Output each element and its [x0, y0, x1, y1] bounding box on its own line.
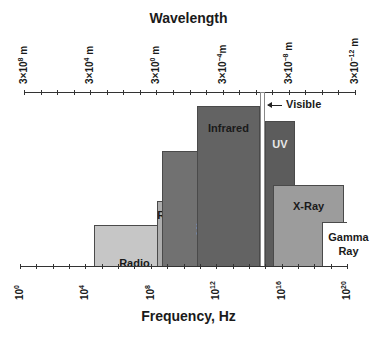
frequency-tick	[20, 264, 21, 269]
frequency-tick	[331, 264, 332, 269]
frequency-tick-label: 100	[13, 285, 25, 300]
band-label-gamma-ray: GammaRay	[324, 230, 372, 258]
band-visible	[260, 92, 265, 266]
wavelength-tick	[355, 90, 356, 95]
frequency-tick-label: 104	[78, 285, 90, 300]
frequency-tick-label: 1016	[275, 281, 287, 300]
visible-arrow-icon	[268, 105, 282, 106]
wavelength-tick	[156, 90, 157, 95]
wavelength-tick	[322, 90, 323, 95]
wavelength-tick	[41, 90, 42, 95]
frequency-tick	[53, 264, 54, 269]
frequency-tick	[36, 264, 37, 269]
wavelength-tick-label: 3×108 m	[17, 46, 29, 84]
frequency-tick	[282, 264, 283, 269]
frequency-tick-label: 108	[144, 285, 156, 300]
band-label-uv: UV	[265, 138, 294, 150]
frequency-tick	[85, 264, 86, 269]
wavelength-tick	[173, 90, 174, 95]
frequency-tick	[134, 264, 135, 269]
frequency-tick	[102, 264, 103, 269]
frequency-tick	[167, 264, 168, 269]
frequency-tick	[69, 264, 70, 269]
frequency-tick	[249, 264, 250, 269]
wavelength-tick	[90, 90, 91, 95]
visible-label: Visible	[286, 98, 321, 110]
wavelength-tick	[289, 90, 290, 95]
wavelength-tick-label: 3×10−8 m	[282, 42, 294, 84]
wavelength-tick	[256, 90, 257, 95]
wavelength-tick	[305, 90, 306, 95]
frequency-tick	[216, 264, 217, 269]
wavelength-tick-label: 3×10−12 m	[348, 38, 360, 84]
frequency-tick	[200, 264, 201, 269]
wavelength-tick	[107, 90, 108, 95]
frequency-tick	[314, 264, 315, 269]
frequency-tick	[347, 264, 348, 269]
wavelength-tick	[223, 90, 224, 95]
frequency-tick	[184, 264, 185, 269]
frequency-tick	[298, 264, 299, 269]
frequency-tick	[265, 264, 266, 269]
wavelength-tick	[206, 90, 207, 95]
wavelength-tick	[123, 90, 124, 95]
wavelength-tick	[272, 90, 273, 95]
frequency-tick-label: 1012	[209, 281, 221, 300]
wavelength-tick	[140, 90, 141, 95]
frequency-tick	[233, 264, 234, 269]
frequency-tick-label: 1020	[340, 281, 352, 300]
band-label-x-ray: X-Ray	[273, 200, 343, 212]
frequency-tick	[118, 264, 119, 269]
wavelength-tick-label: 3×100 m	[149, 46, 161, 84]
wavelength-tick	[338, 90, 339, 95]
wavelength-axis-title: Wavelength	[0, 10, 377, 26]
frequency-axis-title: Frequency, Hz	[0, 308, 377, 324]
frequency-tick	[151, 264, 152, 269]
wavelength-tick-label: 3×10−4m	[216, 45, 228, 84]
wavelength-tick	[24, 90, 25, 95]
band-label-infrared: Infrared	[197, 122, 261, 134]
wavelength-tick	[57, 90, 58, 95]
wavelength-tick	[239, 90, 240, 95]
wavelength-tick	[190, 90, 191, 95]
wavelength-tick-label: 3×104 m	[83, 46, 95, 84]
wavelength-tick	[74, 90, 75, 95]
